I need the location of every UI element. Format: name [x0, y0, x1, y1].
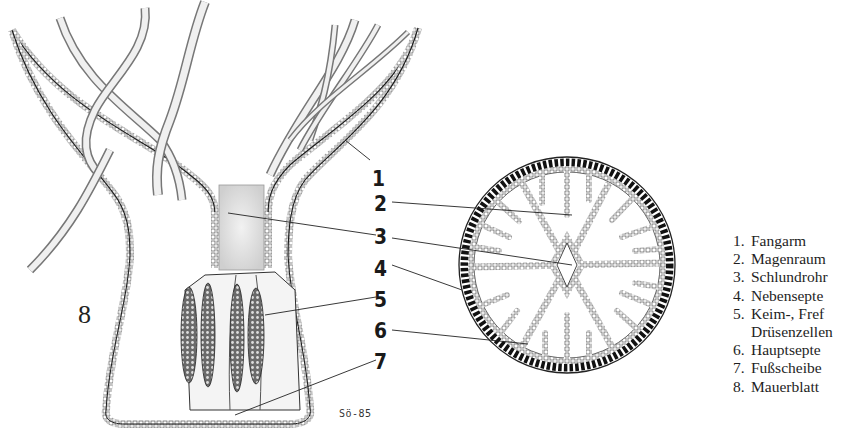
legend-item: 8.Mauerblatt	[733, 378, 864, 396]
legend-item-continuation: Drüsenzellen	[733, 323, 864, 341]
callout-6: 6	[374, 320, 387, 342]
legend-item: 2.Magenraum	[733, 250, 864, 268]
legend: 1.Fangarm 2.Magenraum 3.Schlundrohr 4.Ne…	[733, 232, 864, 396]
callout-1: 1	[372, 168, 385, 190]
legend-item: 5.Keim-, Fref	[733, 305, 864, 323]
tentacles-left	[12, 2, 215, 270]
callout-4: 4	[374, 258, 387, 280]
legend-item: 6.Hauptsepte	[733, 341, 864, 359]
callout-2: 2	[374, 193, 387, 215]
tentacles-right	[268, 20, 418, 260]
longitudinal-section	[12, 2, 418, 424]
pharynx	[219, 185, 264, 270]
figure: 1 2 3 4 5 6 7 8 Sö-85 1.Fangarm 2.Magenr…	[0, 0, 864, 437]
legend-item: 3.Schlundrohr	[733, 268, 864, 286]
legend-item: 4.Nebensepte	[733, 287, 864, 305]
callout-3: 3	[374, 226, 387, 248]
septa-gonads	[181, 272, 300, 410]
callout-7: 7	[374, 351, 387, 373]
callout-8: 8	[78, 300, 91, 330]
legend-item: 1.Fangarm	[733, 232, 864, 250]
legend-item: 7.Fußscheibe	[733, 359, 864, 377]
artist-signature: Sö-85	[339, 408, 372, 419]
callout-5: 5	[374, 289, 387, 311]
